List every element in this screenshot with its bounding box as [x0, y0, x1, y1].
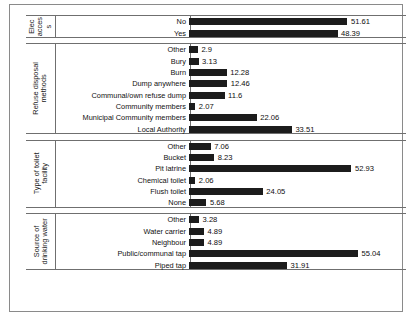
bar-row: Flush toilet24.05 [56, 186, 406, 197]
bar-value-label: 12.46 [231, 79, 250, 88]
bar [189, 199, 206, 206]
bar-track: 22.06 [189, 112, 406, 123]
bar-value-label: 5.68 [210, 198, 225, 207]
bar-row: Burn12.28 [56, 67, 406, 78]
bar-track: 51.61 [189, 16, 406, 27]
bar-value-label: 3.13 [202, 57, 217, 66]
bar-row: Pit latrine52.93 [56, 163, 406, 174]
group-axis-label-line: s [45, 17, 53, 36]
category-tick-label: Bury [56, 57, 189, 66]
bar-value-label: 2.9 [201, 45, 212, 54]
category-tick-label: None [56, 198, 189, 207]
bar [189, 216, 199, 223]
bar-track: 2.9 [189, 44, 406, 55]
group-axis-label-line: drinking water [41, 218, 49, 264]
category-tick-label: Yes [56, 29, 189, 38]
bar-rows: Other7.06Bucket8.23Pit latrine52.93Chemi… [56, 141, 406, 207]
group-axis-label-line: facility [41, 153, 49, 195]
bar-rows: Other2.9Bury3.13Burn12.28Dump anywhere12… [56, 44, 406, 133]
bar-value-label: 7.06 [214, 142, 229, 151]
category-tick-label: Chemical toilet [56, 176, 189, 185]
bar-row: Municipal Community members22.06 [56, 112, 406, 123]
bar-track: 5.68 [189, 197, 406, 208]
category-tick-label: Municipal Community members [56, 113, 189, 122]
bar-row: Neighbour4.89 [56, 237, 406, 248]
bar [189, 165, 351, 172]
bar-track: 33.51 [189, 124, 406, 135]
bar-row: Yes48.39 [56, 27, 406, 38]
bar-row: Bury3.13 [56, 56, 406, 67]
category-tick-label: Burn [56, 68, 189, 77]
bar-track: 7.06 [189, 141, 406, 152]
category-tick-label: Other [56, 142, 189, 151]
bar [189, 239, 204, 246]
bar [189, 126, 292, 133]
bar-row: Bucket8.23 [56, 152, 406, 163]
group-axis-label: Source ofdrinking water [26, 214, 56, 269]
bar [189, 143, 211, 150]
bar-row: No51.61 [56, 16, 406, 27]
bar [189, 154, 214, 161]
bar-rows: No51.61Yes48.39 [56, 16, 406, 37]
category-tick-label: Other [56, 45, 189, 54]
bar-track: 55.04 [189, 248, 406, 259]
bar-value-label: 31.91 [290, 261, 309, 270]
bar [189, 92, 225, 99]
category-tick-label: Bucket [56, 153, 189, 162]
bar [189, 103, 195, 110]
bar-row: Chemical toilet2.06 [56, 175, 406, 186]
bar-track: 12.46 [189, 78, 406, 89]
bar [189, 69, 227, 76]
bar-value-label: 4.89 [208, 238, 223, 247]
bar-value-label: 48.39 [341, 29, 360, 38]
bar-value-label: 8.23 [218, 153, 233, 162]
bar [189, 80, 227, 87]
bar-row: Other7.06 [56, 141, 406, 152]
group-axis-label: Refuse disposalmethods [26, 44, 56, 133]
bar-row: Communal/own refuse dump11.6 [56, 90, 406, 101]
bar-value-label: 12.28 [230, 68, 249, 77]
bar-track: 4.89 [189, 225, 406, 236]
bar-value-label: 51.61 [351, 17, 370, 26]
bar [189, 262, 287, 269]
bar-value-label: 2.06 [199, 176, 214, 185]
category-tick-label: Pit latrine [56, 164, 189, 173]
bar-track: 48.39 [189, 27, 406, 38]
group-axis-label-line: methods [41, 62, 49, 115]
category-tick-label: Community members [56, 102, 189, 111]
bar-track: 31.91 [189, 259, 406, 270]
bar-row: Public/communal tap55.04 [56, 248, 406, 259]
category-group: Source ofdrinking waterOther3.28Water ca… [26, 213, 406, 270]
bar-value-label: 11.6 [228, 91, 242, 100]
category-group: Type of toiletfacilityOther7.06Bucket8.2… [26, 140, 406, 208]
bar-row: None5.68 [56, 197, 406, 208]
bar-track: 12.28 [189, 67, 406, 78]
bar-value-label: 33.51 [295, 125, 314, 134]
group-axis-label: Elecaccess [26, 16, 56, 37]
bar [189, 177, 195, 184]
bar-row: Other2.9 [56, 44, 406, 55]
bar-value-label: 22.06 [260, 113, 279, 122]
bar-track: 3.28 [189, 214, 406, 225]
bar-track: 24.05 [189, 186, 406, 197]
category-tick-label: Dump anywhere [56, 79, 189, 88]
bar [189, 58, 199, 65]
category-group: Refuse disposalmethodsOther2.9Bury3.13Bu… [26, 43, 406, 134]
category-group: ElecaccessNo51.61Yes48.39 [26, 15, 406, 38]
category-tick-label: Water carrier [56, 227, 189, 236]
bar-track: 2.07 [189, 101, 406, 112]
category-tick-label: Communal/own refuse dump [56, 91, 189, 100]
bar [189, 46, 198, 53]
bar-row: Community members2.07 [56, 101, 406, 112]
bar-value-label: 3.28 [203, 215, 218, 224]
bar-value-label: 2.07 [199, 102, 214, 111]
bar-rows: Other3.28Water carrier4.89Neighbour4.89P… [56, 214, 406, 269]
category-tick-label: Other [56, 215, 189, 224]
category-tick-label: No [56, 17, 189, 26]
group-axis-label: Type of toiletfacility [26, 141, 56, 207]
bar [189, 228, 204, 235]
bar-track: 2.06 [189, 175, 406, 186]
bar-value-label: 52.93 [355, 164, 374, 173]
bar [189, 114, 257, 121]
bar-row: Water carrier4.89 [56, 225, 406, 236]
